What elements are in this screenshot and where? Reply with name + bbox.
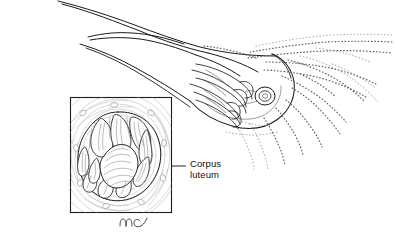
label-line-2: luteum xyxy=(190,170,221,181)
corpus-luteum-inset-box xyxy=(0,0,396,245)
anatomy-figure: Corpus luteum xyxy=(0,0,396,245)
label-line-1: Corpus xyxy=(190,158,221,169)
corpus-luteum-label: Corpus luteum xyxy=(190,159,221,180)
